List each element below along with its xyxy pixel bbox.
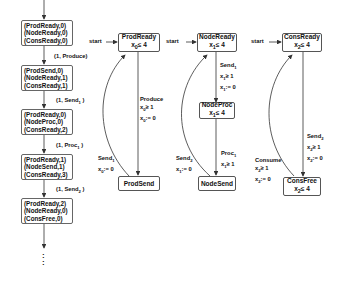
state-name: ConsFree xyxy=(284,177,320,185)
trace-state-0-node: (NodeReady,0) xyxy=(24,29,70,36)
trace-state-3-node: (NodeSend,1) xyxy=(24,163,70,170)
trace-state-1: (ProdSend,0) (NodeReady,1) (ConsReady,1) xyxy=(21,65,73,91)
r-rest: := 0 xyxy=(313,155,323,161)
trace-state-1-cons: (ConsReady,1) xyxy=(24,82,70,89)
transition-text: (1, Send xyxy=(56,186,79,192)
state-name: NodeReady xyxy=(198,33,236,41)
trace-state-2: (ProdReady,0) (NodeProc,0) (ConsReady,2) xyxy=(21,109,73,135)
action: Send1 xyxy=(220,61,237,72)
action: Consume xyxy=(255,156,281,164)
guard: x1≥ 1 xyxy=(220,72,237,83)
trace-state-4-cons: (ConsFree,0) xyxy=(24,215,70,222)
produce-edge-label: Produce x0≥ 1 x0:= 0 xyxy=(140,95,163,125)
consumer-start-label: start xyxy=(251,38,264,44)
node-proc-edge-label: Proc1 x1≥ 1 xyxy=(221,149,236,171)
dots-2: : xyxy=(42,259,45,266)
trace-state-0-prod: (ProdReady,0) xyxy=(24,22,70,29)
reset: x2:= 0 xyxy=(255,175,281,186)
reset: x1:= 0 xyxy=(220,83,237,94)
trace-state-4: (ProdReady,2) (NodeReady,0) (ConsFree,0) xyxy=(21,198,73,224)
state-name: ConsReady xyxy=(283,33,321,41)
r-rest: := 0 xyxy=(182,166,192,172)
action: Proc1 xyxy=(221,149,236,160)
trace-transition-1: (1, Send1 ) xyxy=(56,96,84,107)
action: Produce xyxy=(140,95,163,103)
transition-sub: 1 xyxy=(79,100,81,105)
a-text: Send xyxy=(176,155,190,161)
invariant: x1≤ 4 xyxy=(200,109,234,119)
r-rest: := 0 xyxy=(261,176,271,182)
inv-rest: ≤ 4 xyxy=(301,185,310,192)
state-consready: ConsReady x2≤ 4 xyxy=(282,33,322,52)
g-rest: ≥ 1 xyxy=(146,104,154,110)
g-rest: ≥ 1 xyxy=(313,144,321,150)
r-rest: := 0 xyxy=(104,166,114,172)
action: Send1 xyxy=(98,154,115,165)
trace-state-1-prod: (ProdSend,0) xyxy=(24,67,70,74)
action: Send2 xyxy=(176,154,193,165)
state-consfree: ConsFree x2≤ 4 xyxy=(283,177,321,196)
state-name: NodeSend xyxy=(199,180,235,188)
trace-state-3-cons: (ConsReady,3) xyxy=(24,171,70,178)
trace-transition-2: (1, Proc1 ) xyxy=(56,141,83,152)
trace-state-0: (ProdReady,0) (NodeReady,0) (ConsReady,0… xyxy=(21,20,73,46)
state-name: ProdReady xyxy=(119,33,159,41)
a-sub: 1 xyxy=(234,153,236,158)
inv-rest: ≤ 4 xyxy=(301,41,310,48)
action: Send2 xyxy=(307,132,324,143)
reset: x0:= 0 xyxy=(140,114,163,125)
trace-state-4-node: (NodeReady,0) xyxy=(24,207,70,214)
state-nodeready: NodeReady x1≤ 4 xyxy=(197,33,237,52)
g-rest: ≥ 1 xyxy=(226,73,234,79)
inv-rest: ≤ 4 xyxy=(216,41,225,48)
r-rest: := 0 xyxy=(226,84,236,90)
a-sub: 2 xyxy=(190,158,192,163)
g-rest: ≥ 1 xyxy=(227,161,235,167)
trace-state-2-prod: (ProdReady,0) xyxy=(24,111,70,118)
trace-transition-3: (1, Send2 ) xyxy=(56,185,84,196)
consume-edge-label: Consume x2≥ 1 x2:= 0 xyxy=(255,156,281,186)
trace-transition-0: (1, Produce) xyxy=(54,52,88,60)
guard: x0≥ 1 xyxy=(140,103,163,114)
inv-rest: ≤ 4 xyxy=(216,109,225,116)
state-nodesend: NodeSend xyxy=(198,176,236,191)
trace-state-3-prod: (ProdReady,1) xyxy=(24,156,70,163)
guard: x2≥ 1 xyxy=(255,164,281,175)
prod-send-edge-label: Send1 x0:= 0 xyxy=(98,154,115,176)
a-text: Send xyxy=(307,133,321,139)
a-sub: 1 xyxy=(234,65,236,70)
trace-state-3: (ProdReady,1) (NodeSend,1) (ConsReady,3) xyxy=(21,154,73,180)
node-send1-edge-label: Send1 x1≥ 1 x1:= 0 xyxy=(220,61,237,94)
guard: x2≥ 1 xyxy=(307,143,324,154)
invariant: x2≤ 4 xyxy=(283,41,321,51)
trace-state-0-cons: (ConsReady,0) xyxy=(24,37,70,44)
continuation-dots: : : xyxy=(42,252,45,266)
transition-text: (1, Send xyxy=(56,97,79,103)
transition-text: (1, Proc xyxy=(56,142,77,148)
a-text: Send xyxy=(220,62,234,68)
state-nodeproc: NodeProc x1≤ 4 xyxy=(199,102,235,119)
transition-sub: 1 xyxy=(77,145,79,150)
inv-rest: ≤ 4 xyxy=(138,41,147,48)
a-sub: 1 xyxy=(112,158,114,163)
state-name: NodeProc xyxy=(200,101,234,109)
producer-start-label: start xyxy=(89,38,102,44)
a-sub: 2 xyxy=(321,136,323,141)
reset: x0:= 0 xyxy=(98,165,115,176)
invariant: x0≤ 4 xyxy=(119,41,159,51)
r-rest: := 0 xyxy=(146,115,156,121)
transition-text: (1, Produce) xyxy=(54,53,88,59)
trace-state-2-cons: (ConsReady,2) xyxy=(24,126,70,133)
state-prodsend: ProdSend xyxy=(118,176,160,191)
invariant: x1≤ 4 xyxy=(198,41,236,51)
reset: x1:= 0 xyxy=(176,165,193,176)
a-text: Send xyxy=(98,155,112,161)
a-text: Proc xyxy=(221,150,234,156)
transition-sub: 2 xyxy=(79,189,81,194)
cons-send2-edge-label: Send2 x2≥ 1 x2:= 0 xyxy=(307,132,324,165)
trace-state-2-node: (NodeProc,0) xyxy=(24,118,70,125)
state-name: ProdSend xyxy=(119,180,159,188)
trace-state-4-prod: (ProdReady,2) xyxy=(24,200,70,207)
g-rest: ≥ 1 xyxy=(261,165,269,171)
reset: x2:= 0 xyxy=(307,154,324,165)
